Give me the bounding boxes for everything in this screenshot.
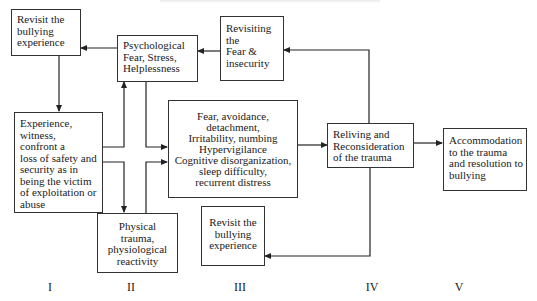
stage-label-5: V: [444, 280, 474, 295]
arrow-experience-to-psychological: [102, 82, 124, 147]
stage-label-3: III: [225, 280, 255, 295]
box-symptoms: Fear, avoidance, detachment, Irritabilit…: [168, 100, 298, 198]
box-physical: Physical trauma, physiological reactivit…: [97, 213, 178, 273]
stage-label-4: IV: [357, 280, 387, 295]
box-psychological: Psychological Fear, Stress, Helplessness: [117, 35, 198, 82]
box-experience: Experience, witness, confront a loss of …: [14, 112, 103, 213]
arrow-physical-to-symptoms: [146, 162, 167, 213]
box-revisit-bullying-bottom: Revisit the bullying experience: [201, 206, 265, 266]
box-revisit-bullying-top: Revisit the bullying experience: [11, 9, 81, 56]
box-revisiting-fear: Revisiting the Fear & insecurity: [220, 16, 284, 81]
box-reliving: Reliving and Reconsideration of the trau…: [327, 123, 414, 168]
box-accommodation: Accommodation to the trauma and resoluti…: [443, 128, 527, 191]
arrow-psychological-to-symptoms: [146, 81, 167, 147]
stage-label-1: I: [35, 280, 65, 295]
arrow-experience-to-physical: [102, 162, 124, 212]
stage-label-2: II: [116, 280, 146, 295]
